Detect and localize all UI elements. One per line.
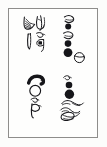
glyph-plate: Handwritten glyph plate Glyph cluster to… xyxy=(0,0,107,147)
plate-border xyxy=(8,8,98,138)
